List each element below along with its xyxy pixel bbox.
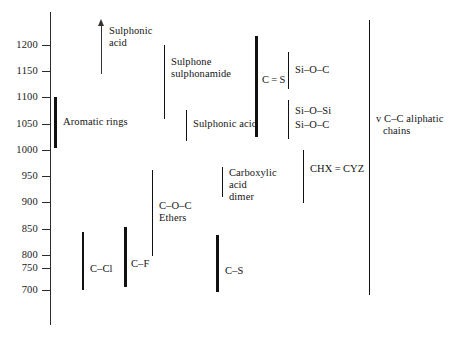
y-axis-line <box>50 12 51 325</box>
axis-tick-label-1000: 1000 <box>0 144 38 155</box>
axis-tick-label-750: 750 <box>0 262 38 273</box>
range-bar-sulphone-sulphonamide <box>164 45 165 119</box>
range-label-si-o-c-lower: Si–O–C <box>295 119 329 131</box>
axis-tick-700 <box>42 290 50 291</box>
range-label-c-equals-s: C = S <box>262 74 285 86</box>
axis-tick-1200 <box>42 45 50 46</box>
axis-tick-950 <box>42 176 50 177</box>
axis-tick-label-1100: 1100 <box>0 91 38 102</box>
axis-tick-900 <box>42 202 50 203</box>
range-bar-v-c-c-aliphatic-chains <box>369 20 370 295</box>
ir-correlation-chart: 1200 1150 1100 1050 1000 950 900 850 800… <box>0 0 450 337</box>
range-label-c-f: C–F <box>131 258 149 270</box>
range-label-sulphonic-acid-upper-line1: Sulphonic <box>109 25 153 37</box>
range-label-c-o-c-line1: C–O–C <box>159 200 192 212</box>
range-label-carboxylic-line1: Carboxylic <box>229 167 277 179</box>
axis-tick-1150 <box>42 71 50 72</box>
axis-tick-850 <box>42 229 50 230</box>
range-label-carboxylic-line3: dimer <box>229 191 254 203</box>
axis-tick-750 <box>42 268 50 269</box>
axis-tick-1100 <box>42 97 50 98</box>
range-label-sulphonic-acid-lower: Sulphonic acid <box>193 118 257 130</box>
axis-tick-1050 <box>42 124 50 125</box>
range-bar-sulphonic-acid-upper <box>101 26 102 74</box>
axis-tick-1000 <box>42 150 50 151</box>
range-label-carboxylic-line2: acid <box>229 179 247 191</box>
range-label-aromatic-rings: Aromatic rings <box>63 116 128 128</box>
range-label-sulphone-sulphonamide-line1: Sulphone <box>171 56 211 68</box>
axis-tick-label-800: 800 <box>0 249 38 260</box>
range-bar-c-equals-s <box>255 36 258 137</box>
range-bar-si-o-si-si-o-c <box>288 100 289 139</box>
axis-tick-label-1150: 1150 <box>0 65 38 76</box>
axis-tick-label-900: 900 <box>0 196 38 207</box>
range-label-sulphonic-acid-upper-line2: acid <box>109 37 127 49</box>
axis-tick-label-1050: 1050 <box>0 118 38 129</box>
range-bar-chx-equals-cyz <box>303 150 304 203</box>
range-bar-carboxylic-acid-dimer <box>222 167 223 197</box>
range-label-si-o-c-upper: Si–O–C <box>295 64 329 76</box>
range-label-si-o-si: Si–O–Si <box>295 105 331 117</box>
range-label-v-cc-line2: chains <box>383 125 410 137</box>
range-bar-sulphonic-acid-lower <box>186 110 187 141</box>
axis-tick-label-700: 700 <box>0 284 38 295</box>
range-label-v-cc-line1: v C–C aliphatic <box>376 113 443 125</box>
range-bar-si-o-c-upper <box>288 52 289 89</box>
range-bar-c-s <box>216 235 219 292</box>
range-label-c-o-c-line2: Ethers <box>159 212 186 224</box>
range-bar-c-o-c-ethers <box>152 170 153 256</box>
arrow-up-icon <box>98 19 104 26</box>
range-label-sulphone-sulphonamide-line2: sulphonamide <box>171 68 231 80</box>
axis-tick-label-850: 850 <box>0 223 38 234</box>
range-label-c-s: C–S <box>225 265 243 277</box>
axis-tick-label-950: 950 <box>0 170 38 181</box>
range-bar-c-cl <box>82 232 84 290</box>
range-bar-aromatic-rings <box>54 97 57 148</box>
axis-tick-800 <box>42 255 50 256</box>
range-bar-c-f <box>124 227 127 287</box>
range-label-chx-equals-cyz: CHX = CYZ <box>310 163 364 175</box>
axis-tick-label-1200: 1200 <box>0 39 38 50</box>
range-label-c-cl: C–Cl <box>90 263 113 275</box>
